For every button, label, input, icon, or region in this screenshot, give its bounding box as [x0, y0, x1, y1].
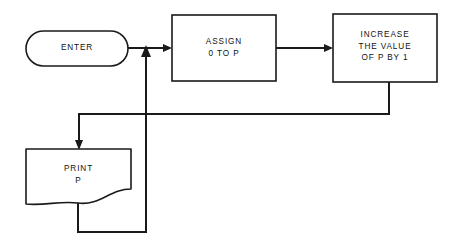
edge-print-feedback	[78, 56, 146, 232]
flowchart-canvas: ENTER ASSIGN 0 TO P INCREASE THE VALUE O…	[0, 0, 455, 246]
process-assign-shape[interactable]	[172, 15, 276, 81]
edge-increase-to-print	[79, 82, 389, 145]
edge-assign-to-increase-arrowhead	[324, 44, 333, 52]
edge-enter-to-assign-arrowhead	[163, 44, 172, 52]
terminal-enter-shape[interactable]	[26, 31, 128, 66]
edge-print-feedback-arrowhead	[141, 45, 151, 57]
process-increase-shape[interactable]	[333, 14, 437, 82]
flowchart-svg	[0, 0, 455, 246]
document-print-shape[interactable]	[26, 149, 131, 204]
